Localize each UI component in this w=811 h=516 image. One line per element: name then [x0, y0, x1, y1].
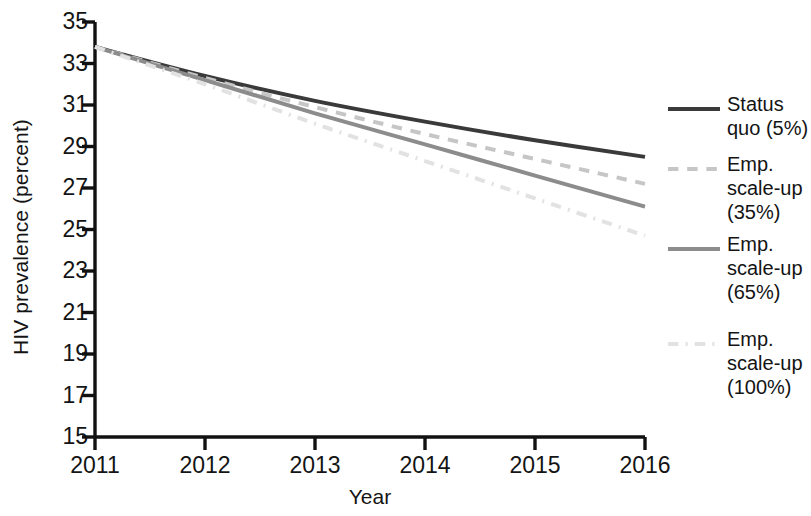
legend-label: Statusquo (5%) — [727, 92, 811, 140]
legend-label-line: Status — [727, 92, 811, 116]
series-line-3 — [95, 47, 645, 236]
legend-label: Emp.scale-up(65%) — [727, 232, 811, 304]
legend-swatch-line-icon — [668, 165, 720, 171]
series-line-0 — [95, 47, 645, 157]
legend-swatch-line-icon — [668, 245, 720, 251]
legend-label-line: quo (5%) — [727, 116, 811, 140]
legend-label: Emp.scale-up(100%) — [727, 327, 811, 399]
legend-swatch-line-icon — [668, 340, 720, 346]
chart-figure: HIV prevalence (percent) 353331292725232… — [0, 0, 811, 516]
legend-label-line: (65%) — [727, 280, 811, 304]
legend-label-line: scale-up — [727, 256, 811, 280]
legend-label-line: (100%) — [727, 375, 811, 399]
legend-label-line: (35%) — [727, 200, 811, 224]
legend-swatch-line-icon — [668, 105, 720, 111]
series-line-2 — [95, 47, 645, 207]
legend-label-line: Emp. — [727, 327, 811, 351]
legend-label-line: Emp. — [727, 152, 811, 176]
legend-label-line: scale-up — [727, 176, 811, 200]
legend-label-line: scale-up — [727, 351, 811, 375]
chart-legend: Statusquo (5%)Emp.scale-up(35%)Emp.scale… — [668, 0, 811, 516]
legend-label-line: Emp. — [727, 232, 811, 256]
legend-label: Emp.scale-up(35%) — [727, 152, 811, 224]
